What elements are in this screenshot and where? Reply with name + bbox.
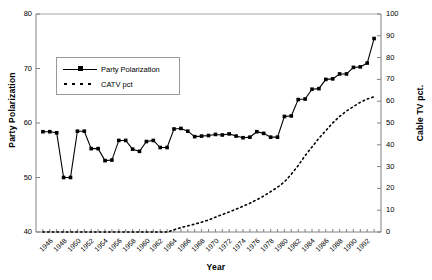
y-axis-right-tick-label: 100 — [386, 9, 410, 18]
y-axis-left-tick-label: 70 — [10, 64, 32, 73]
y-axis-right-tick-label: 10 — [386, 205, 410, 214]
y-axis-left-tick-label: 80 — [10, 9, 32, 18]
chart-figure: Party Polarization Cable TV pct. Year Pa… — [0, 0, 432, 280]
legend-item-party-polarization: Party Polarization — [63, 62, 160, 76]
y-axis-right-tick-label: 40 — [386, 140, 410, 149]
y-axis-right-tick-label: 60 — [386, 96, 410, 105]
legend-label: Party Polarization — [101, 65, 160, 74]
y-axis-left-tick-label: 60 — [10, 118, 32, 127]
y-axis-right-tick-label: 0 — [386, 227, 410, 236]
y-axis-right-tick-label: 90 — [386, 31, 410, 40]
legend-item-catv-pct: CATV pct — [63, 77, 133, 91]
legend-marker-solid-square-icon — [63, 64, 97, 74]
y-axis-right-tick-label: 70 — [386, 74, 410, 83]
y-axis-right-tick-label: 50 — [386, 118, 410, 127]
y-axis-right-tick-label: 20 — [386, 183, 410, 192]
y-axis-left-tick-label: 50 — [10, 173, 32, 182]
chart-legend: Party Polarization CATV pct — [56, 57, 180, 95]
y-axis-left-tick-label: 40 — [10, 227, 32, 236]
y-axis-right-tick-label: 30 — [386, 162, 410, 171]
y-axis-right-tick-label: 80 — [386, 53, 410, 62]
legend-marker-dotted-line-icon — [63, 79, 97, 89]
legend-label: CATV pct — [101, 80, 133, 89]
